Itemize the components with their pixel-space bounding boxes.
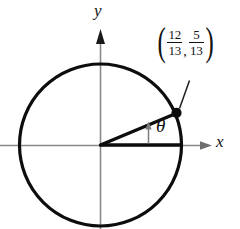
theta-angle-label: θ <box>156 116 165 135</box>
x-axis-label: x <box>216 133 224 150</box>
close-paren: ) <box>205 24 213 61</box>
x-axis-arrowhead <box>200 141 212 150</box>
unit-circle-figure: y x θ ( 12 13 , 5 13 ) <box>0 0 240 229</box>
x-coordinate-numerator: 12 <box>168 28 183 41</box>
y-coordinate-fraction: 5 13 <box>189 28 204 57</box>
x-coordinate-denominator: 13 <box>168 44 183 57</box>
y-coordinate-numerator: 5 <box>192 28 200 41</box>
terminal-point-coordinate-label: ( 12 13 , 5 13 ) <box>155 24 216 61</box>
terminal-point-dot <box>171 108 181 118</box>
label-leader-line <box>180 81 190 109</box>
y-axis-arrowhead <box>96 29 105 44</box>
coordinate-separator: , <box>183 45 187 61</box>
y-axis-label: y <box>94 2 102 19</box>
open-paren: ( <box>158 24 166 61</box>
x-coordinate-fraction: 12 13 <box>167 28 182 57</box>
y-coordinate-denominator: 13 <box>189 44 204 57</box>
